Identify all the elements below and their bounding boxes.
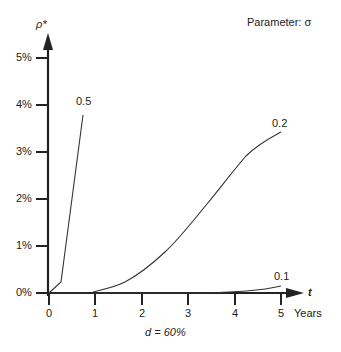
y-tick-1: 1%: [16, 239, 32, 251]
x-tick-1: 1: [92, 307, 98, 319]
x-axis-arrow-icon: [286, 288, 304, 298]
y-tick-4: 4%: [16, 98, 32, 110]
series-0.5-line: [49, 115, 83, 293]
series-label-0.5: 0.5: [76, 95, 91, 107]
series-label-0.1: 0.1: [274, 270, 289, 282]
parameter-annotation: Parameter: σ: [247, 16, 311, 28]
y-tick-2: 2%: [16, 192, 32, 204]
x-tick-5: 5: [278, 307, 284, 319]
y-axis-label: ρ*: [36, 18, 47, 30]
caption: d = 60%: [145, 326, 186, 338]
x-axis-label: t: [308, 286, 312, 298]
series-0.2-line: [93, 132, 281, 292]
x-tick-2: 2: [139, 307, 145, 319]
series-label-0.2: 0.2: [272, 117, 287, 129]
y-ticks: [36, 58, 48, 246]
x-ticks: [49, 293, 281, 305]
x-tick-0: 0: [46, 307, 52, 319]
y-tick-5: 5%: [16, 51, 32, 63]
chart-plot: [0, 0, 341, 352]
y-axis-arrow-icon: [43, 33, 53, 50]
y-tick-0: 0%: [16, 286, 32, 298]
x-unit-label: Years: [294, 307, 322, 319]
y-tick-3: 3%: [16, 145, 32, 157]
x-tick-3: 3: [185, 307, 191, 319]
x-tick-4: 4: [232, 307, 238, 319]
